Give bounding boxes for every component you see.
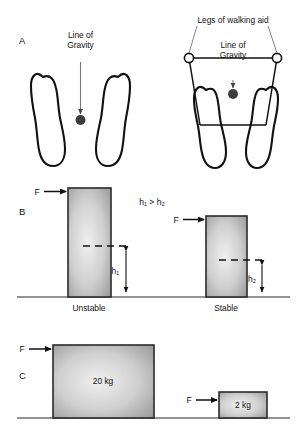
center-of-gravity-dot	[76, 115, 86, 125]
h1-label: h₁	[112, 266, 120, 276]
panel-a-letter: A	[19, 35, 26, 46]
panel-b-left-force-label: F	[34, 187, 39, 197]
panel-c-letter: C	[19, 370, 26, 381]
panel-a-right-line-of-gravity-label-1: Line of	[220, 40, 246, 50]
panel-a-left-gravity-line	[76, 62, 86, 125]
unstable-caption: Unstable	[72, 303, 105, 313]
figure-canvas: Line of Gravity Legs of walking aid Line…	[0, 0, 301, 435]
height-comparison-label: h₁ > h₂	[139, 197, 165, 207]
panel-a-left-line-of-gravity-label-2: Gravity	[67, 40, 94, 50]
panel-a-right-gravity-line	[228, 80, 238, 99]
center-of-gravity-dot	[228, 89, 238, 99]
panel-b-letter: B	[19, 206, 25, 217]
stable-caption: Stable	[214, 303, 238, 313]
biomechanics-figure: Line of Gravity Legs of walking aid Line…	[0, 0, 301, 435]
panel-c-right-force-label: F	[186, 395, 191, 405]
stable-block	[206, 216, 247, 297]
walking-aid-label: Legs of walking aid	[197, 15, 269, 25]
walking-aid-leg-left-tip	[184, 53, 193, 62]
h2-label: h₂	[248, 274, 256, 284]
panel-a-right-feet	[194, 87, 278, 168]
heavy-block-mass-label: 20 kg	[93, 376, 114, 386]
walking-aid-leg-right-tip	[272, 53, 281, 62]
panel-c-left-force-label: F	[19, 344, 24, 354]
unstable-block	[68, 188, 111, 297]
light-block-mass-label: 2 kg	[235, 400, 251, 410]
panel-a-left-line-of-gravity-label-1: Line of	[68, 30, 94, 40]
panel-a-right-line-of-gravity-label-2: Gravity	[220, 50, 247, 60]
panel-b-right-force-label: F	[173, 215, 178, 225]
